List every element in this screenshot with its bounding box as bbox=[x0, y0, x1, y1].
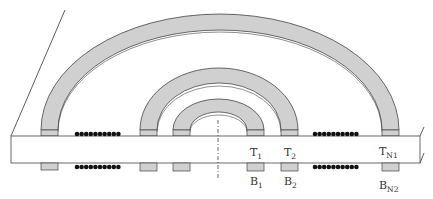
coil-diagram: T1 T2 TN1 B1 B2 BN2 bbox=[0, 0, 433, 199]
label-BN2: BN2 bbox=[379, 179, 399, 194]
diagram-canvas: T1 T2 TN1 B1 B2 BN2 bbox=[0, 0, 433, 199]
label-B1: B1 bbox=[250, 175, 263, 190]
right-perspective-line-top bbox=[420, 127, 424, 136]
inner-turn-arc bbox=[173, 99, 264, 132]
label-B2: B2 bbox=[284, 175, 297, 190]
substrate bbox=[11, 136, 420, 163]
right-perspective-line-bottom bbox=[420, 153, 424, 163]
